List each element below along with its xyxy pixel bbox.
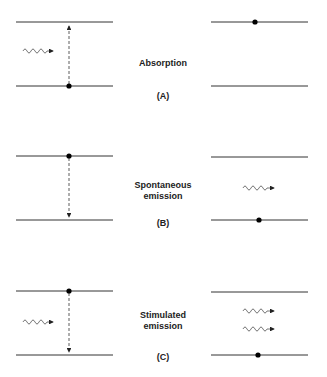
panel-a-before [16,22,113,89]
stimulated-label-line1: Stimulated [103,310,223,321]
panel-c-before [16,288,113,355]
panel-c-after [211,292,308,358]
panel-a-after [211,19,308,86]
panel-b-tag: (B) [103,218,223,229]
panel-a-tag: (A) [103,91,223,102]
absorption-label: Absorption [103,58,223,69]
panel-b-after [211,157,308,223]
stimulated-label-line2: emission [103,321,223,332]
spontaneous-label-line2: emission [103,191,223,202]
panel-c-tag: (C) [103,352,223,363]
spontaneous-label-line1: Spontaneous [103,180,223,191]
panel-b-before [16,153,113,220]
